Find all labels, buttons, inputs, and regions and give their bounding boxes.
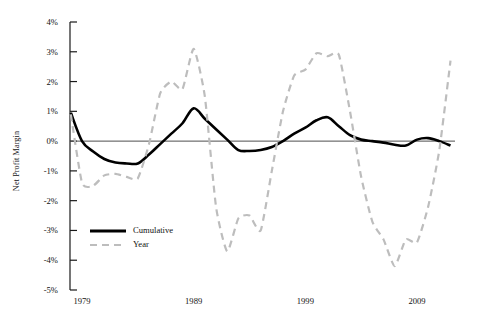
legend-label-cumulative: Cumulative	[133, 225, 173, 235]
axis-layer	[70, 22, 77, 290]
series-line-year	[71, 49, 451, 266]
x-tick-label: 1999	[297, 296, 314, 306]
y-tick-label: -2%	[30, 196, 58, 206]
y-tick-label: 2%	[30, 77, 58, 87]
series-line-cumulative	[71, 108, 451, 164]
y-tick-label: -4%	[30, 255, 58, 265]
y-axis-tick-labels: 4%3%2%1%0%-1%-2%-3%-4%-5%	[30, 0, 58, 321]
x-tick-label: 1989	[185, 296, 202, 306]
y-tick-label: -5%	[30, 285, 58, 295]
y-tick-label: -3%	[30, 225, 58, 235]
x-tick-label: 2009	[408, 296, 425, 306]
y-tick-label: 4%	[30, 17, 58, 27]
y-tick-label: 3%	[30, 47, 58, 57]
y-tick-label: -1%	[30, 166, 58, 176]
plot-area	[0, 0, 477, 321]
net-profit-margin-chart: Net Profit Margin 4%3%2%1%0%-1%-2%-3%-4%…	[0, 0, 477, 321]
y-tick-label: 1%	[30, 106, 58, 116]
y-axis-title: Net Profit Margin	[12, 96, 26, 226]
x-tick-label: 1979	[73, 296, 90, 306]
legend-label-year: Year	[133, 239, 149, 249]
y-tick-label: 0%	[30, 136, 58, 146]
series-layer	[71, 49, 451, 266]
